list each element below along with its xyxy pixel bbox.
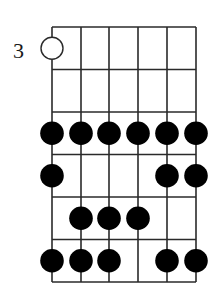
fretboard-diagram: 3 bbox=[0, 0, 220, 299]
note-dot bbox=[184, 249, 208, 273]
note-dot bbox=[69, 249, 93, 273]
note-dot bbox=[126, 206, 150, 230]
note-dot bbox=[69, 121, 93, 145]
note-dot bbox=[97, 249, 121, 273]
note-dot bbox=[40, 249, 64, 273]
note-dot bbox=[97, 121, 121, 145]
start-fret-label: 3 bbox=[13, 38, 24, 63]
note-dot bbox=[155, 121, 179, 145]
fret-grid bbox=[52, 27, 196, 282]
note-dot bbox=[40, 164, 64, 188]
note-dot bbox=[126, 121, 150, 145]
note-dot bbox=[155, 164, 179, 188]
note-dot bbox=[69, 206, 93, 230]
note-dot bbox=[184, 164, 208, 188]
note-dot bbox=[97, 206, 121, 230]
note-dot bbox=[40, 121, 64, 145]
open-note-dot bbox=[41, 37, 63, 59]
note-dot bbox=[155, 249, 179, 273]
note-dot bbox=[184, 121, 208, 145]
